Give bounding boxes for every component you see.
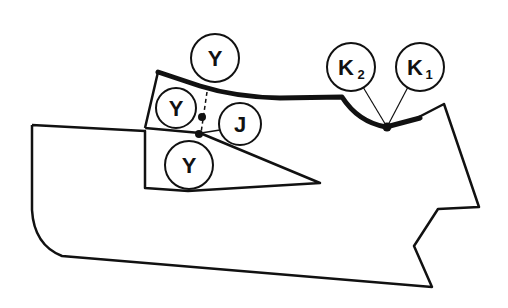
deck-line-thick bbox=[158, 72, 420, 127]
point-lower bbox=[195, 130, 203, 138]
circle-y-top: Y bbox=[191, 34, 239, 82]
circle-k1: K 1 bbox=[396, 43, 444, 91]
label-k2-subscript: 2 bbox=[357, 67, 364, 82]
circle-y-left: Y bbox=[156, 88, 196, 128]
label-k1: K bbox=[407, 55, 423, 80]
circle-k2: K 2 bbox=[327, 43, 375, 91]
circle-y-bottom: Y bbox=[165, 141, 213, 189]
j-connector bbox=[201, 130, 220, 133]
label-y-top: Y bbox=[208, 46, 223, 71]
point-upper bbox=[198, 113, 206, 121]
label-k1-subscript: 1 bbox=[425, 67, 432, 82]
label-y-bottom: Y bbox=[182, 153, 197, 178]
circle-j: J bbox=[219, 103, 261, 145]
label-j: J bbox=[234, 112, 246, 137]
hull-diagram: Y Y J Y K 2 K 1 bbox=[0, 0, 508, 308]
label-y-left: Y bbox=[169, 96, 184, 121]
label-k2: K bbox=[338, 55, 354, 80]
dashed-connector bbox=[201, 92, 207, 133]
